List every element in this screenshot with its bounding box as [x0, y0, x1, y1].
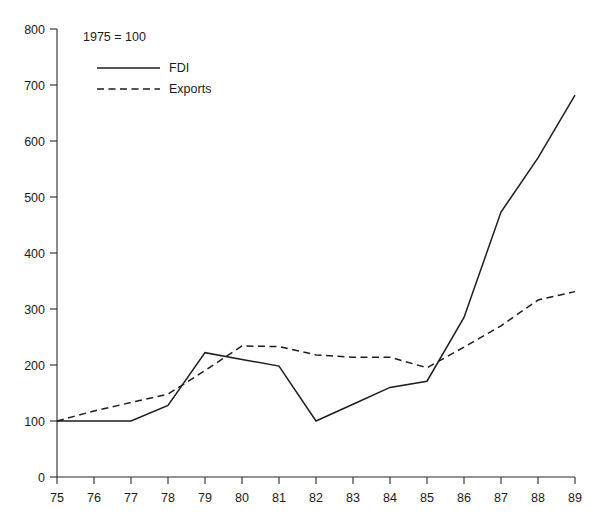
x-tick-label: 86 — [457, 491, 471, 505]
x-tick-label: 81 — [272, 491, 286, 505]
series-line-fdi — [57, 95, 575, 421]
x-tick-label: 80 — [235, 491, 249, 505]
x-tick-label: 85 — [420, 491, 434, 505]
x-tick-label: 78 — [161, 491, 175, 505]
x-tick-label: 89 — [568, 491, 582, 505]
x-tick-label: 84 — [383, 491, 397, 505]
x-tick-label: 76 — [87, 491, 101, 505]
x-tick-label: 87 — [494, 491, 508, 505]
y-tick-label: 700 — [24, 79, 45, 93]
y-tick-group: 0100200300400500600700800 — [24, 23, 57, 485]
line-chart: 0100200300400500600700800 75767778798081… — [0, 0, 607, 522]
y-tick-label: 0 — [38, 471, 45, 485]
series-group — [57, 95, 575, 421]
y-axis: 0100200300400500600700800 — [24, 23, 57, 485]
x-tick-label: 77 — [124, 491, 138, 505]
y-tick-label: 800 — [24, 23, 45, 37]
base-year-note: 1975 = 100 — [83, 30, 146, 44]
legend-label-exports: Exports — [169, 82, 211, 96]
y-tick-label: 500 — [24, 191, 45, 205]
y-tick-label: 600 — [24, 135, 45, 149]
x-axis: 757677787980818283848586878889 — [50, 477, 582, 505]
y-tick-label: 100 — [24, 415, 45, 429]
series-line-exports — [57, 292, 575, 421]
x-tick-label: 75 — [50, 491, 64, 505]
y-tick-label: 200 — [24, 359, 45, 373]
y-tick-label: 400 — [24, 247, 45, 261]
x-tick-label: 79 — [198, 491, 212, 505]
chart-container: 0100200300400500600700800 75767778798081… — [0, 0, 607, 522]
x-tick-label: 88 — [531, 491, 545, 505]
x-tick-label: 83 — [346, 491, 360, 505]
x-tick-label: 82 — [309, 491, 323, 505]
y-tick-label: 300 — [24, 303, 45, 317]
legend-label-fdi: FDI — [169, 61, 189, 75]
x-tick-group: 757677787980818283848586878889 — [50, 477, 582, 505]
chart-legend: FDI Exports — [97, 61, 211, 96]
